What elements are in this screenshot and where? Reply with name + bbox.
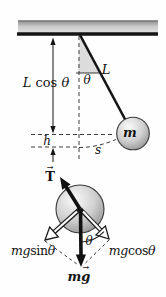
pendulum-diagram: L cos θ θ L m h s →T mgsinθ θ mgcosθ m→g xyxy=(0,0,166,297)
weight-label: m→g xyxy=(68,270,91,283)
angle-wedge xyxy=(78,36,99,73)
tension-label: →T xyxy=(45,170,55,183)
vector-arrow-icon: → xyxy=(83,263,90,271)
height-up-arrowhead xyxy=(50,148,55,155)
length-label: L xyxy=(102,63,111,76)
lcos-label: L cos θ xyxy=(23,76,70,89)
theta-label-top: θ xyxy=(83,74,90,86)
down-arrowhead xyxy=(50,126,55,134)
vector-arrow-icon: → xyxy=(47,163,54,171)
mgcos-label: mgcosθ xyxy=(109,245,156,258)
height-label: h xyxy=(43,135,51,147)
mgsin-label: mgsinθ xyxy=(11,245,55,258)
mass-label: m xyxy=(123,126,137,139)
arc-length-label: s xyxy=(95,144,101,156)
theta-label-fbd: θ xyxy=(85,235,92,247)
ceiling xyxy=(17,21,158,34)
up-arrowhead xyxy=(50,38,55,46)
